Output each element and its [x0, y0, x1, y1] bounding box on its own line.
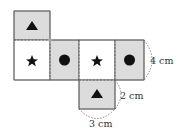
width-label: 3 cm	[89, 118, 112, 129]
depth-label: 2 cm	[120, 90, 143, 101]
circle-icon	[124, 55, 135, 66]
box-net-diagram: 4 cm 2 cm 3 cm	[0, 0, 183, 137]
height-label: 4 cm	[150, 55, 173, 66]
vertex-dot	[48, 38, 52, 42]
circle-icon	[59, 55, 70, 66]
